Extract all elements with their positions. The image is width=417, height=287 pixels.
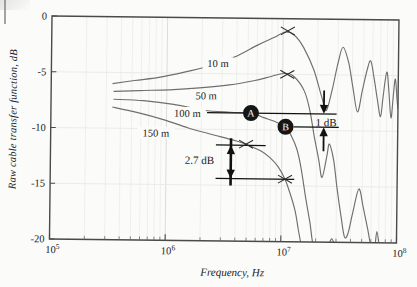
curve-label-10m: 10 m [207, 58, 228, 69]
marker-b-letter: B [282, 121, 289, 132]
y-tick-label: -5 [38, 66, 47, 77]
curve-label-150m: 150 m [143, 127, 170, 138]
x-tick-label: 108 [392, 246, 407, 259]
horizontal-gridline [51, 127, 398, 131]
y-tick-label: -10 [32, 122, 46, 133]
y-tick-label: -20 [30, 233, 44, 244]
marker-b: B [277, 119, 293, 135]
x-tick-label: 106 [161, 243, 176, 256]
transfer-function-figure: 10 m50 m100 m150 m1051061071080-5-10-15-… [0, 0, 417, 287]
arrowhead [319, 127, 328, 136]
y-tick-label: 0 [42, 10, 47, 21]
horizontal-gridline [51, 72, 398, 76]
marker-a-letter: A [247, 107, 255, 118]
curve-50m [112, 71, 385, 256]
x-tick-label: 105 [45, 242, 60, 255]
curve-label-50m: 50 m [195, 90, 216, 101]
grid [49, 16, 399, 243]
measurement-line [216, 178, 295, 179]
measurement-line [216, 145, 266, 146]
scanned-figure-page: 10 m50 m100 m150 m1051061071080-5-10-15-… [0, 0, 417, 287]
y-tick-label: -15 [31, 178, 45, 189]
measurement-1-dB: 1 dB [207, 89, 340, 151]
horizontal-gridline [50, 183, 397, 187]
x-tick-label: 107 [276, 245, 291, 258]
measurement-label: 2.7 dB [185, 154, 214, 166]
measurement-label: 1 dB [315, 116, 336, 128]
arrowhead [226, 170, 235, 179]
chart-canvas: 10 m50 m100 m150 m1051061071080-5-10-15-… [0, 0, 417, 287]
curve-label-100m: 100 m [174, 108, 201, 119]
x-axis-title: Frequency, Hz [132, 265, 332, 279]
arrowhead [227, 145, 236, 154]
